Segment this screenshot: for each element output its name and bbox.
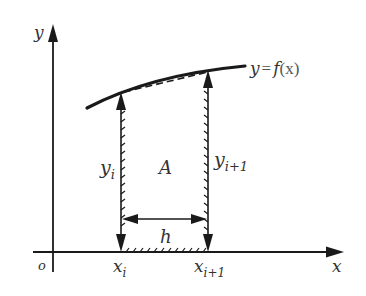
trapezoid-chord xyxy=(124,72,208,92)
trapezoid-diagram: y x o y=f(x) yi yi+1 A h xi xi+1 xyxy=(0,0,366,296)
arrow-down-icon xyxy=(116,234,126,252)
left-x-label: xi xyxy=(113,256,127,280)
width-label: h xyxy=(160,226,172,247)
x-axis-label: x xyxy=(332,256,342,276)
origin-label: o xyxy=(38,258,46,273)
y-axis xyxy=(48,24,58,272)
left-ordinate xyxy=(116,92,126,252)
left-height-label: yi xyxy=(99,156,115,182)
arrow-right-icon xyxy=(191,214,207,224)
y-axis-label: y xyxy=(33,22,44,42)
area-label: A xyxy=(157,157,172,178)
function-curve xyxy=(87,66,245,108)
y-axis-arrow-icon xyxy=(48,24,58,42)
x-axis xyxy=(33,247,344,258)
function-label: y=f(x) xyxy=(249,58,299,78)
right-ordinate xyxy=(203,70,213,252)
width-arrow xyxy=(122,214,207,224)
right-height-label: yi+1 xyxy=(213,148,248,174)
right-x-label: xi+1 xyxy=(194,256,225,280)
